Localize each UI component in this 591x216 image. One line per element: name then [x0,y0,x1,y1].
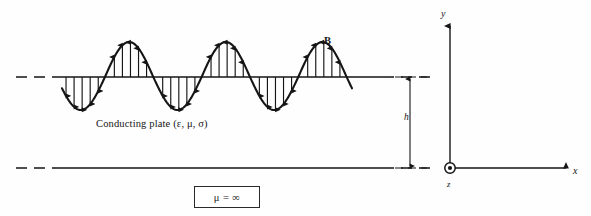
z-axis-out-of-page-icon [445,163,455,173]
conducting-plate-caption: Conducting plate (ε, μ, σ) [96,119,208,130]
b-field-sine-curve [62,42,352,110]
mu-infinity-annotation-box: μ = ∞ [194,186,260,208]
y-axis-label: y [441,9,445,19]
figure-canvas [0,0,591,216]
x-axis-label: x [573,166,577,176]
mu-infinity-label: μ = ∞ [214,192,240,203]
figure-conducting-plate: Conducting plate (ε, μ, σ) B h y x z μ =… [0,0,591,216]
height-dimension-group [395,77,427,168]
b-field-label: B [324,36,331,47]
z-axis-label: z [447,180,450,189]
coordinate-axes-group [445,26,566,173]
height-dimension-label: h [404,113,409,123]
